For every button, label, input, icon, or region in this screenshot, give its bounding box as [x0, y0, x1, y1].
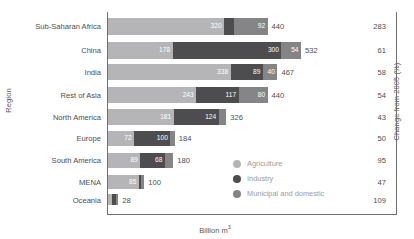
- bar-total-label: 326: [230, 113, 243, 122]
- x-axis-title-text: Billion m: [199, 226, 227, 235]
- stacked-bar[interactable]: 7210012: [108, 131, 175, 146]
- chart-row: North America1811242132643: [0, 109, 414, 125]
- bar-total-label: 100: [148, 178, 161, 187]
- bar-segment-agriculture[interactable]: 72: [108, 131, 134, 146]
- stacked-bar[interactable]: 18112421: [108, 109, 226, 125]
- chart-row: Oceania28109: [0, 194, 414, 205]
- segment-value-label: 80: [258, 92, 268, 99]
- segment-value-label: 320: [211, 23, 225, 30]
- legend-color-swatch: [233, 160, 241, 168]
- bar-segment-municipal[interactable]: 80: [239, 87, 268, 103]
- bar-segment-municipal[interactable]: 12: [170, 131, 174, 146]
- category-label: Rest of Asia: [0, 91, 101, 100]
- bar-segment-agriculture[interactable]: 89: [108, 153, 140, 168]
- stacked-bar[interactable]: 896823: [108, 153, 173, 168]
- stacked-bar[interactable]: 24311780: [108, 87, 268, 103]
- bar-segment-agriculture[interactable]: 178: [108, 42, 173, 59]
- legend-item[interactable]: Agriculture: [233, 156, 324, 171]
- change-from-2005-value: 54: [352, 91, 386, 100]
- bar-segment-agriculture[interactable]: 243: [108, 87, 196, 103]
- change-from-2005-value: 95: [352, 156, 386, 165]
- chart-row: China1783005453261: [0, 42, 414, 59]
- bar-segment-municipal[interactable]: 9: [141, 175, 144, 189]
- bar-segment-agriculture[interactable]: 85: [108, 175, 139, 189]
- legend-color-swatch: [233, 175, 241, 183]
- chart-row: India338894046758: [0, 64, 414, 80]
- bar-segment-municipal[interactable]: 21: [219, 109, 227, 125]
- chart-row: Sub-Saharan Africa3202892440283: [0, 18, 414, 35]
- stacked-bar[interactable]: 3202892: [108, 18, 268, 35]
- change-from-2005-value: 283: [352, 22, 386, 31]
- bar-total-label: 440: [272, 91, 285, 100]
- change-from-2005-value: 43: [352, 113, 386, 122]
- bar-segment-industry[interactable]: 124: [174, 109, 219, 125]
- bar-segment-municipal[interactable]: 54: [281, 42, 301, 59]
- segment-value-label: 178: [159, 47, 173, 54]
- bar-segment-industry[interactable]: 117: [196, 87, 238, 103]
- bar-segment-municipal[interactable]: 23: [165, 153, 173, 168]
- x-axis-line-extension: [301, 214, 396, 215]
- segment-value-label: 89: [253, 69, 263, 76]
- legend-item[interactable]: Municipal and domestic: [233, 186, 324, 201]
- chart-row: MENA856910047: [0, 175, 414, 189]
- segment-value-label: 243: [183, 92, 197, 99]
- segment-value-label: 89: [130, 157, 140, 164]
- segment-value-label: 181: [160, 114, 174, 121]
- bar-total-label: 180: [177, 156, 190, 165]
- segment-value-label: 124: [205, 114, 219, 121]
- segment-value-label: 338: [217, 69, 231, 76]
- stacked-bar-chart: Region Change from 2005 (%) Billion m3 S…: [0, 0, 414, 239]
- change-from-2005-value: 109: [352, 196, 386, 205]
- stacked-bar[interactable]: 17830054: [108, 42, 301, 59]
- change-from-2005-value: 47: [352, 178, 386, 187]
- bar-segment-industry[interactable]: 300: [173, 42, 282, 59]
- bar-segment-agriculture[interactable]: 338: [108, 64, 231, 80]
- category-label: India: [0, 68, 101, 77]
- bar-segment-municipal[interactable]: 92: [234, 18, 267, 35]
- bar-segment-industry[interactable]: 28: [224, 18, 234, 35]
- legend-label: Municipal and domestic: [247, 189, 324, 198]
- segment-value-label: 40: [268, 69, 278, 76]
- bar-segment-municipal[interactable]: [116, 194, 119, 205]
- stacked-bar[interactable]: 3388940: [108, 64, 277, 80]
- category-label: North America: [0, 113, 101, 122]
- segment-value-label: 54: [291, 47, 301, 54]
- stacked-bar[interactable]: [108, 194, 118, 205]
- bar-total-label: 184: [179, 134, 192, 143]
- category-label: Oceania: [0, 196, 101, 205]
- bar-segment-industry[interactable]: 100: [134, 131, 170, 146]
- bar-segment-agriculture[interactable]: 181: [108, 109, 174, 125]
- bar-total-label: 532: [305, 46, 318, 55]
- change-from-2005-value: 61: [352, 46, 386, 55]
- bar-segment-industry[interactable]: 89: [231, 64, 263, 80]
- bar-total-label: 440: [272, 22, 285, 31]
- category-label: Europe: [0, 134, 101, 143]
- legend-color-swatch: [233, 190, 241, 198]
- chart-legend: AgricultureIndustryMunicipal and domesti…: [233, 156, 324, 201]
- chart-row: South America89682318095: [0, 153, 414, 168]
- category-label: Sub-Saharan Africa: [0, 22, 101, 31]
- segment-value-label: 100: [157, 135, 171, 142]
- stacked-bar[interactable]: 8569: [108, 175, 144, 189]
- legend-item[interactable]: Industry: [233, 171, 324, 186]
- segment-value-label: 85: [129, 179, 139, 186]
- bar-segment-agriculture[interactable]: 320: [108, 18, 224, 35]
- legend-label: Agriculture: [247, 159, 282, 168]
- category-label: China: [0, 46, 101, 55]
- x-axis-title: Billion m3: [150, 224, 280, 235]
- x-axis-title-superscript: 3: [228, 224, 231, 230]
- segment-value-label: 72: [124, 135, 134, 142]
- category-label: South America: [0, 156, 101, 165]
- segment-value-label: 117: [226, 92, 239, 99]
- bar-segment-industry[interactable]: 68: [140, 153, 165, 168]
- change-from-2005-value: 58: [352, 68, 386, 77]
- chart-row: Rest of Asia2431178044054: [0, 87, 414, 103]
- bar-total-label: 28: [122, 196, 130, 205]
- chart-row: Europe721001218450: [0, 131, 414, 146]
- segment-value-label: 300: [268, 47, 282, 54]
- x-axis-line: [107, 214, 301, 215]
- bar-total-label: 467: [281, 68, 294, 77]
- bar-segment-municipal[interactable]: 40: [263, 64, 278, 80]
- legend-label: Industry: [247, 174, 273, 183]
- segment-value-label: 92: [258, 23, 268, 30]
